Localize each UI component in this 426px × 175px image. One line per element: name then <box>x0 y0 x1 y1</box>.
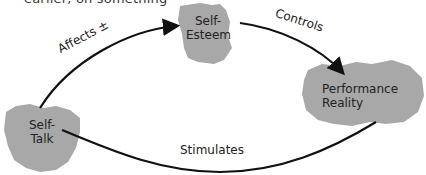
node-self-talk-label: Self- Talk <box>20 118 64 146</box>
node-performance-reality-label: Performance Reality <box>322 82 406 110</box>
performance-reality-line2: Reality <box>322 96 406 110</box>
edge-label-stimulates: Stimulates <box>180 143 244 157</box>
self-esteem-line2: Esteem <box>186 28 230 42</box>
self-esteem-line1: Self- <box>186 14 230 28</box>
self-talk-line1: Self- <box>20 118 64 132</box>
edge-affects <box>40 26 176 108</box>
self-talk-line2: Talk <box>20 132 64 146</box>
performance-reality-line1: Performance <box>322 82 406 96</box>
node-self-esteem-label: Self- Esteem <box>186 14 230 42</box>
